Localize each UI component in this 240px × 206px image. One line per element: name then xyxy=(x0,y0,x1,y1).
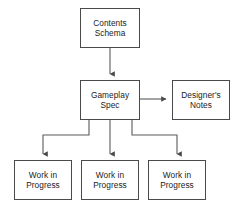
node-designers-notes-line2: Notes xyxy=(190,100,212,110)
node-gameplay-spec[interactable]: Gameplay Spec xyxy=(80,80,140,120)
connector-gameplay-to-wip3 xyxy=(132,120,177,154)
node-work-in-progress-1-line2: Progress xyxy=(26,180,60,190)
node-gameplay-spec-line1: Gameplay xyxy=(91,90,129,100)
node-work-in-progress-2[interactable]: Work in Progress xyxy=(81,160,139,200)
node-work-in-progress-2-line2: Progress xyxy=(93,180,127,190)
node-work-in-progress-3-line2: Progress xyxy=(160,180,194,190)
node-work-in-progress-2-line1: Work in xyxy=(96,170,124,180)
node-contents-schema-line1: Contents xyxy=(93,18,127,28)
connector-gameplay-to-wip1 xyxy=(43,120,89,154)
node-work-in-progress-3[interactable]: Work in Progress xyxy=(148,160,206,200)
node-contents-schema-line2: Schema xyxy=(95,28,126,38)
flowchart-diagram: Contents Schema Gameplay Spec Designer's… xyxy=(0,0,240,206)
node-contents-schema[interactable]: Contents Schema xyxy=(80,8,140,48)
node-work-in-progress-3-line1: Work in xyxy=(163,170,191,180)
node-designers-notes-line1: Designer's xyxy=(181,90,220,100)
node-designers-notes[interactable]: Designer's Notes xyxy=(172,80,230,120)
node-gameplay-spec-line2: Spec xyxy=(100,100,119,110)
node-work-in-progress-1[interactable]: Work in Progress xyxy=(14,160,72,200)
node-work-in-progress-1-line1: Work in xyxy=(29,170,57,180)
